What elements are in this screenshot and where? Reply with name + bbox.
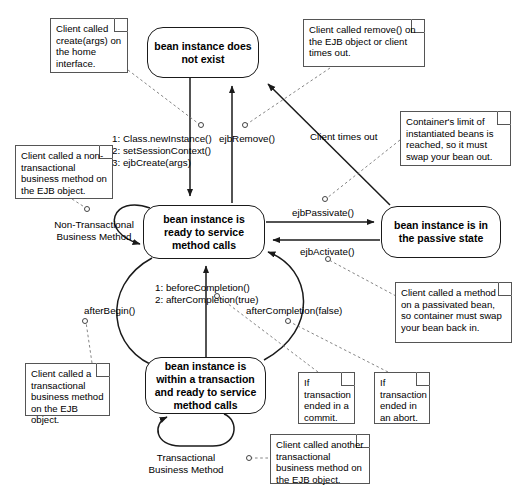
edge-client-times-out (268, 84, 390, 205)
edge-label-ejb-activate: ejbActivate() (300, 246, 354, 258)
note-fold-icon (498, 282, 512, 296)
edge-label-after-begin: afterBegin() (84, 305, 135, 317)
note-client-called-non-transactional-method: Client called a non-transactional busine… (15, 145, 113, 199)
state-bean-ready[interactable]: bean instance is ready to service method… (143, 205, 265, 259)
edge-label-after-completion-false: afterCompletion(false) (246, 305, 342, 317)
anchor-transactional-method-dot (247, 456, 252, 461)
edge-label-client-times-out: Client times out (310, 131, 378, 143)
note-client-called-another-transactional-method: Client called another transactional busi… (270, 434, 370, 484)
anchor-remove-dot (243, 123, 248, 128)
edge-label-ejb-remove: ejbRemove() (219, 133, 275, 145)
anchor-non-transactional-dot (85, 207, 90, 212)
note-transaction-abort: If transaction ended in an abort. (374, 372, 430, 424)
edge-label-completion-sequence: 1: beforeCompletion() 2: afterCompletion… (155, 282, 258, 306)
edge-transactional-self-loop-in (210, 414, 234, 446)
state-bean-in-transaction[interactable]: bean instance is within a transaction an… (145, 357, 266, 414)
note-fold-icon (497, 111, 511, 125)
note-text: If transaction ended in a commit. (304, 377, 351, 423)
leader-non-transactional (72, 199, 86, 208)
edge-label-non-transactional-business-method: Non-Transactional Business Method (53, 219, 135, 243)
leader-remove (247, 68, 330, 124)
leader-after-begin (86, 322, 92, 363)
note-text: Client called create(args) on the home i… (56, 23, 121, 69)
state-bean-passive[interactable]: bean instance is in the passive state (381, 206, 501, 258)
anchor-after-completion-false-dot (286, 319, 291, 324)
note-text: Client called a method on a passivated b… (401, 287, 502, 333)
note-client-called-remove: Client called remove() on the EJB object… (303, 19, 425, 67)
edge-label-transactional-business-method: Transactional Business Method (146, 452, 226, 476)
note-fold-icon (96, 363, 110, 377)
note-container-limit-reached: Container's limit of instantiated beans … (400, 111, 511, 166)
state-bean-does-not-exist[interactable]: bean instance does not exist (147, 27, 259, 78)
leader-abort (290, 322, 388, 372)
edge-label-ejb-passivate: ejbPassivate() (292, 207, 354, 219)
anchor-after-begin-dot (83, 319, 88, 324)
edge-transactional-self-loop-out (158, 417, 180, 446)
note-transaction-commit: If transaction ended in a commit. (298, 372, 355, 424)
note-text: Client called another transactional busi… (276, 439, 363, 485)
leader-create (128, 70, 199, 124)
note-text: Client called remove() on the EJB object… (309, 24, 416, 58)
anchor-create-dot (199, 123, 204, 128)
anchor-passivate-dot (323, 197, 328, 202)
note-client-called-transactional-method: Client called a transactional business m… (25, 363, 110, 416)
leader-container-limit (327, 140, 400, 198)
note-fold-icon (341, 372, 355, 386)
note-fold-icon (416, 372, 430, 386)
note-text: Client called a non-transactional busine… (21, 150, 107, 196)
note-client-called-create: Client called create(args) on the home i… (50, 18, 128, 73)
note-fold-icon (114, 18, 128, 32)
uml-state-diagram-canvas: bean instance does not exist bean instan… (0, 0, 518, 497)
leader-passivated-bean (329, 260, 396, 296)
edge-label-create-sequence: 1: Class.newInstance() 2: setSessionCont… (112, 133, 212, 169)
note-text: Container's limit of instantiated beans … (406, 116, 493, 162)
note-text: If transaction ended in an abort. (380, 377, 427, 423)
note-client-called-method-on-passivated-bean: Client called a method on a passivated b… (395, 282, 512, 343)
